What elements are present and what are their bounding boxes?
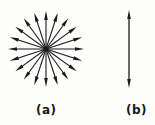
radial-arrow-1-head xyxy=(73,37,82,41)
radial-arrow-18-shaft xyxy=(46,49,73,68)
panel-label-a: (a) xyxy=(36,104,57,116)
panel-a-radial-arrows xyxy=(8,11,84,87)
radial-arrow-13-shaft xyxy=(27,49,46,76)
radial-center-dot xyxy=(44,47,49,52)
figure-container: (a) (b) xyxy=(0,0,155,125)
radial-arrow-9-shaft xyxy=(15,39,46,49)
radial-arrow-10-head xyxy=(8,47,17,51)
radial-arrow-15-head xyxy=(44,78,48,87)
radial-arrow-7-shaft xyxy=(27,22,46,49)
panel-b-vertical-arrow xyxy=(127,10,131,88)
panel-label-b: (b) xyxy=(126,104,147,116)
radial-arrow-6-head xyxy=(34,13,38,22)
radial-arrow-16-shaft xyxy=(46,49,56,80)
radial-arrow-11-head xyxy=(10,56,19,60)
radial-arrow-14-head xyxy=(34,76,38,85)
radial-arrow-8-shaft xyxy=(19,30,46,49)
radial-arrow-4-shaft xyxy=(46,18,56,49)
radial-arrow-19-shaft xyxy=(46,49,77,59)
radial-arrow-12-shaft xyxy=(19,49,46,68)
radial-arrow-3-shaft xyxy=(46,22,65,49)
radial-arrow-9-head xyxy=(10,37,19,41)
radial-arrow-1-shaft xyxy=(46,39,77,49)
radial-arrow-4-head xyxy=(53,13,57,22)
radial-arrow-17-shaft xyxy=(46,49,65,76)
radial-arrow-2-shaft xyxy=(46,30,73,49)
radial-arrow-19-head xyxy=(73,56,82,60)
radial-arrow-6-shaft xyxy=(36,18,46,49)
radial-arrow-11-shaft xyxy=(15,49,46,59)
vertical-arrow-up-head xyxy=(127,10,131,19)
radial-arrow-0-head xyxy=(75,47,84,51)
radial-arrow-14-shaft xyxy=(36,49,46,80)
radial-arrow-16-head xyxy=(53,76,57,85)
vertical-arrow-down-head xyxy=(127,79,131,88)
radial-arrow-5-head xyxy=(44,11,48,20)
